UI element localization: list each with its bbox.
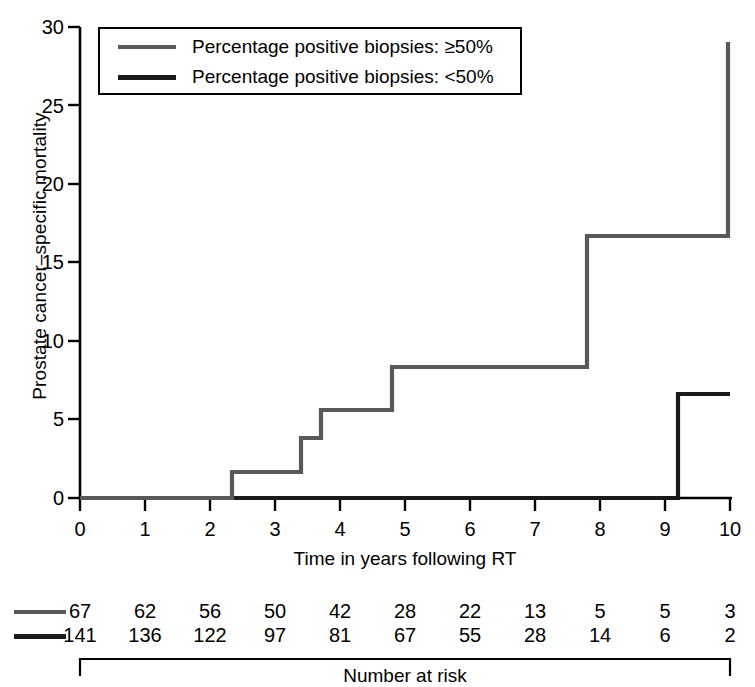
- risk-value: 14: [572, 624, 628, 646]
- risk-value: 2: [702, 624, 755, 646]
- risk-value: 6: [637, 624, 693, 646]
- x-tick-label-1: 1: [125, 519, 165, 539]
- risk-value: 28: [507, 624, 563, 646]
- risk-value: 136: [117, 624, 173, 646]
- legend-label-lt50: Percentage positive biopsies: <50%: [192, 66, 494, 88]
- x-tick-label-6: 6: [450, 519, 490, 539]
- legend-line-swatch-icon: [118, 75, 176, 80]
- risk-value: 3: [702, 600, 755, 622]
- legend: Percentage positive biopsies: ≥50% Perce…: [98, 27, 522, 95]
- x-tick-label-9: 9: [645, 519, 685, 539]
- risk-value: 5: [637, 600, 693, 622]
- x-tick-label-0: 0: [60, 519, 100, 539]
- risk-value: 50: [247, 600, 303, 622]
- x-tick-label-2: 2: [190, 519, 230, 539]
- risk-value: 55: [442, 624, 498, 646]
- series-line-lt50: [80, 394, 730, 498]
- risk-row-lt50: 141 136 122 97 81 67 55 28 14 6 2: [0, 624, 755, 648]
- legend-entry-lt50: Percentage positive biopsies: <50%: [100, 62, 520, 92]
- risk-value: 81: [312, 624, 368, 646]
- risk-row-gte50: 67 62 56 50 42 28 22 13 5 5 3: [0, 600, 755, 624]
- legend-line-swatch-icon: [118, 45, 176, 49]
- survival-curve-figure: Prostate cancer–specific mortality 30 25…: [0, 0, 755, 687]
- risk-value: 42: [312, 600, 368, 622]
- risk-value: 5: [572, 600, 628, 622]
- x-tick-label-10: 10: [710, 519, 750, 539]
- legend-label-gte50: Percentage positive biopsies: ≥50%: [192, 36, 493, 58]
- risk-value: 67: [377, 624, 433, 646]
- x-tick-label-3: 3: [255, 519, 295, 539]
- series-line-gte50: [80, 42, 728, 498]
- x-tick-label-4: 4: [320, 519, 360, 539]
- risk-value: 97: [247, 624, 303, 646]
- risk-value: 62: [117, 600, 173, 622]
- risk-value: 22: [442, 600, 498, 622]
- x-axis-title: Time in years following RT: [80, 548, 730, 570]
- risk-value: 28: [377, 600, 433, 622]
- number-at-risk-table: 67 62 56 50 42 28 22 13 5 5 3 141 136 12…: [0, 600, 755, 650]
- y-tick-marks: [68, 27, 80, 498]
- risk-value: 141: [52, 624, 108, 646]
- risk-value: 67: [52, 600, 108, 622]
- x-tick-label-7: 7: [515, 519, 555, 539]
- risk-value: 122: [182, 624, 238, 646]
- risk-value: 56: [182, 600, 238, 622]
- x-tick-label-8: 8: [580, 519, 620, 539]
- risk-value: 13: [507, 600, 563, 622]
- number-at-risk-caption: Number at risk: [80, 665, 730, 687]
- x-tick-label-5: 5: [385, 519, 425, 539]
- legend-entry-gte50: Percentage positive biopsies: ≥50%: [100, 32, 520, 62]
